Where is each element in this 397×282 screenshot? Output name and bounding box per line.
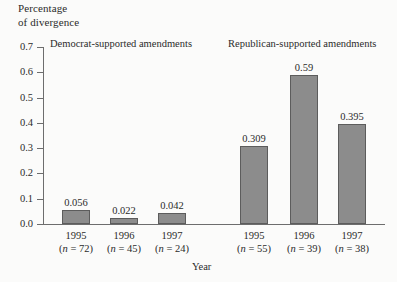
y-axis-tick-label: 0.3 bbox=[3, 143, 33, 154]
y-axis-tick bbox=[37, 123, 43, 124]
y-axis-tick-label-wrap: 0.0 bbox=[0, 219, 33, 230]
bar bbox=[158, 213, 186, 224]
y-axis-tick-label: 0.0 bbox=[3, 219, 33, 230]
bar bbox=[62, 210, 90, 224]
y-axis-tick-label: 0.4 bbox=[3, 118, 33, 129]
bar-chart: Percentage of divergence 0.00.10.20.30.4… bbox=[0, 0, 397, 282]
y-axis-tick-label-wrap: 0.2 bbox=[0, 168, 33, 179]
x-axis-year: 1997 bbox=[139, 230, 205, 243]
y-axis-tick bbox=[37, 224, 43, 225]
bar bbox=[110, 218, 138, 224]
bar-value-label: 0.042 bbox=[142, 200, 202, 211]
bar-value-label: 0.395 bbox=[322, 111, 382, 122]
x-axis-year: 1997 bbox=[319, 230, 385, 243]
y-axis-tick-label-wrap: 0.6 bbox=[0, 67, 33, 78]
y-axis-tick-label-wrap: 0.3 bbox=[0, 143, 33, 154]
y-axis-tick-label: 0.2 bbox=[3, 168, 33, 179]
x-axis-sample-size: (n = 24) bbox=[139, 243, 205, 256]
y-axis-tick-label-wrap: 0.5 bbox=[0, 93, 33, 104]
x-axis-tick-label: 1997(n = 24) bbox=[139, 230, 205, 255]
y-axis-tick bbox=[37, 173, 43, 174]
y-axis-tick-label-wrap: 0.1 bbox=[0, 194, 33, 205]
group-caption-republican: Republican-supported amendments bbox=[228, 38, 376, 50]
x-axis-title: Year bbox=[192, 261, 211, 273]
x-axis-tick-label: 1997(n = 38) bbox=[319, 230, 385, 255]
bar-value-label: 0.59 bbox=[274, 62, 334, 73]
y-axis-title: Percentage of divergence bbox=[18, 2, 79, 29]
y-axis-tick-label: 0.5 bbox=[3, 93, 33, 104]
group-caption-democrat: Democrat-supported amendments bbox=[50, 38, 192, 50]
x-axis-sample-size: (n = 38) bbox=[319, 243, 385, 256]
y-axis-line bbox=[43, 47, 44, 225]
x-axis-line bbox=[43, 224, 385, 225]
y-axis-tick-label: 0.1 bbox=[3, 194, 33, 205]
bar-value-label: 0.309 bbox=[224, 133, 284, 144]
y-axis-tick bbox=[37, 98, 43, 99]
bar bbox=[240, 146, 268, 224]
y-axis-tick bbox=[37, 72, 43, 73]
y-axis-tick bbox=[37, 47, 43, 48]
bar bbox=[338, 124, 366, 224]
bar bbox=[290, 75, 318, 224]
y-axis-tick bbox=[37, 199, 43, 200]
y-axis-tick-label-wrap: 0.4 bbox=[0, 118, 33, 129]
y-axis-tick-label: 0.7 bbox=[3, 42, 33, 53]
y-axis-tick-label: 0.6 bbox=[3, 67, 33, 78]
y-axis-tick-label-wrap: 0.7 bbox=[0, 42, 33, 53]
y-axis-tick bbox=[37, 148, 43, 149]
